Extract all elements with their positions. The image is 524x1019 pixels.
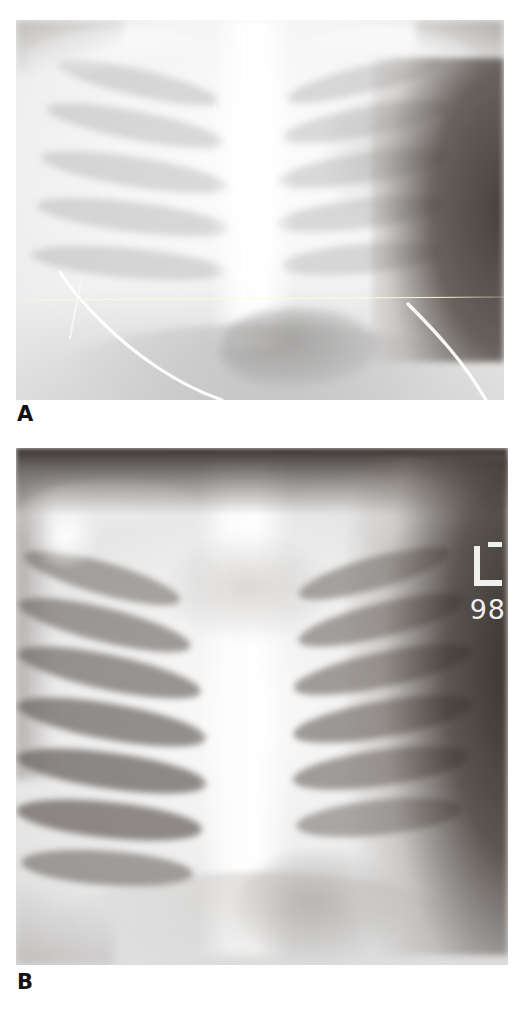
panel-caption-a: A bbox=[17, 404, 33, 425]
panel-a-image bbox=[16, 20, 504, 400]
marker-cap bbox=[488, 542, 502, 547]
background-dark-right bbox=[346, 458, 508, 954]
catheter-line bbox=[16, 20, 504, 400]
radiograph-panel-a bbox=[16, 20, 504, 400]
thymus-shadow bbox=[164, 531, 331, 645]
side-marker-l-icon bbox=[468, 542, 502, 586]
radiograph-figure: A bbox=[0, 0, 524, 1019]
panel-caption-b: B bbox=[17, 972, 33, 993]
background-dark-bottom-left bbox=[16, 882, 114, 965]
marker-digits-label: 98 bbox=[470, 596, 506, 623]
panel-b-image: 98 bbox=[16, 448, 508, 965]
radiograph-panel-b: 98 bbox=[16, 448, 508, 965]
marker-foot bbox=[474, 580, 502, 586]
background-dark-left bbox=[16, 469, 60, 779]
